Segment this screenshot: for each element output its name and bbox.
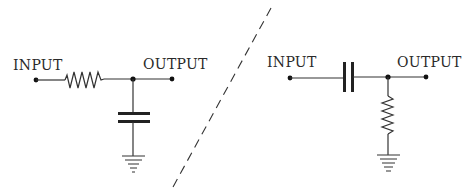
left-output-label: OUTPUT	[143, 56, 208, 72]
left-circuit-low-pass: INPUT OUTPUT	[13, 56, 208, 172]
left-shunt-capacitor-icon	[118, 114, 150, 122]
right-output-label: OUTPUT	[397, 54, 462, 70]
left-series-resistor-icon	[65, 72, 104, 88]
right-circuit-high-pass: INPUT OUTPUT	[267, 54, 462, 171]
right-ground-icon	[377, 155, 400, 171]
left-ground-icon	[122, 156, 145, 172]
right-series-capacitor-icon	[345, 62, 353, 92]
right-shunt-resistor-icon	[382, 96, 393, 134]
left-input-label: INPUT	[13, 57, 63, 73]
separator-dashed-line	[173, 8, 271, 187]
right-input-label: INPUT	[267, 54, 317, 70]
right-output-terminal	[424, 75, 429, 80]
rc-filter-diagram: INPUT OUTPUT	[0, 0, 471, 195]
left-output-terminal	[170, 77, 175, 82]
